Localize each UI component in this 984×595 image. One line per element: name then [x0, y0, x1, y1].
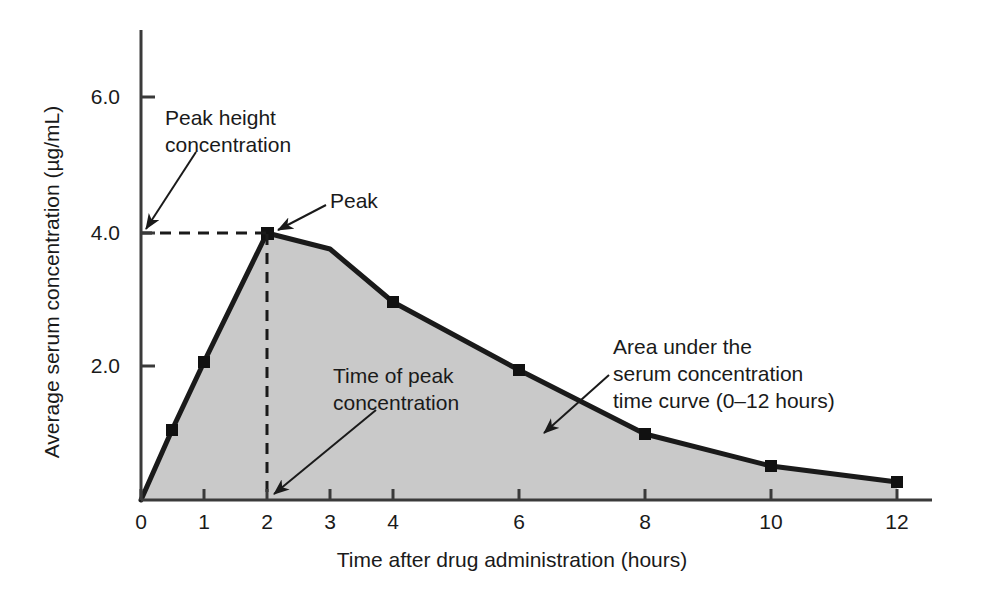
annotation-peak: Peak [330, 187, 378, 214]
x-tick-label-0: 0 [116, 510, 166, 534]
y-axis-ticks [141, 97, 155, 366]
annotation-area-under-the-curve: Area under the serum concentration time … [613, 333, 835, 414]
x-tick-label-10: 10 [746, 510, 796, 534]
x-tick-label-12: 12 [872, 510, 922, 534]
x-tick-label-3: 3 [305, 510, 355, 534]
y-tick-label-4: 4.0 [60, 221, 120, 245]
chart-plot-area [0, 0, 984, 595]
x-tick-label-1: 1 [179, 510, 229, 534]
x-tick-label-4: 4 [368, 510, 418, 534]
data-point-marker [891, 476, 903, 488]
data-point-marker [765, 460, 777, 472]
x-axis-title: Time after drug administration (hours) [242, 548, 782, 572]
data-point-marker [513, 364, 525, 376]
peak-annotation-arrow [278, 205, 326, 230]
annotation-time-of-peak-concentration: Time of peak concentration [333, 362, 459, 416]
data-point-marker [198, 356, 210, 368]
x-tick-label-8: 8 [620, 510, 670, 534]
data-point-marker [166, 424, 178, 436]
data-point-marker [387, 296, 399, 308]
x-tick-label-2: 2 [242, 510, 292, 534]
x-tick-label-6: 6 [494, 510, 544, 534]
y-tick-label-2: 2.0 [60, 354, 120, 378]
peak-height-annotation-arrow [146, 152, 196, 229]
y-axis-title: Average serum concentration (µg/mL) [40, 97, 64, 467]
annotation-peak-height-concentration: Peak height concentration [165, 104, 291, 158]
pharmacokinetics-chart-figure: 6.0 4.0 2.0 0 1 2 3 4 6 8 10 12 Average … [0, 0, 984, 595]
y-tick-label-6: 6.0 [60, 85, 120, 109]
data-point-marker [639, 428, 651, 440]
